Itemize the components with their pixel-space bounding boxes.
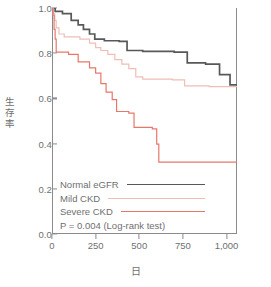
- y-tick-label: 1.0: [26, 3, 52, 14]
- series-line-mild-ckd: [52, 8, 237, 87]
- y-tick-label: 0.2: [26, 183, 52, 194]
- legend-item-mild-ckd: Mild CKD: [60, 192, 205, 206]
- series-line-severe-ckd: [52, 8, 237, 162]
- x-tick-mark: [51, 234, 52, 239]
- y-tick-label: 0.8: [26, 48, 52, 59]
- legend-swatch-severe-ckd: [121, 211, 205, 212]
- x-tick-label: 0: [49, 240, 54, 251]
- x-tick-label: 500: [131, 240, 147, 251]
- y-axis-title-char: 存: [3, 107, 17, 118]
- x-tick-mark: [226, 234, 227, 239]
- x-tick-label: 250: [88, 240, 104, 251]
- x-tick-label: 1,000: [215, 240, 239, 251]
- legend-label-normal-egfr: Normal eGFR: [60, 179, 119, 190]
- x-tick-mark: [139, 234, 140, 239]
- chart-legend: Normal eGFR Mild CKD Severe CKD P = 0.00…: [60, 178, 205, 232]
- legend-label-severe-ckd: Severe CKD: [60, 206, 113, 217]
- series-line-normal-egfr: [52, 8, 237, 85]
- x-axis: 02505007501,000: [52, 234, 237, 256]
- y-tick-label: 0.4: [26, 138, 52, 149]
- x-tick-mark: [95, 234, 96, 239]
- y-axis: 0.00.20.40.60.81.0: [14, 8, 52, 234]
- legend-swatch-normal-egfr: [127, 184, 205, 185]
- x-axis-title: 日: [0, 263, 271, 278]
- legend-item-severe-ckd: Severe CKD: [60, 205, 205, 219]
- y-axis-title-char: 生: [3, 96, 17, 107]
- y-tick-label: 0.0: [26, 229, 52, 240]
- y-axis-title: 生存率: [3, 96, 17, 129]
- pvalue-annotation: P = 0.004 (Log-rank test): [60, 219, 205, 233]
- x-tick-label: 750: [175, 240, 191, 251]
- legend-label-mild-ckd: Mild CKD: [60, 193, 100, 204]
- y-axis-title-char: 率: [3, 118, 17, 129]
- legend-swatch-mild-ckd: [108, 198, 205, 199]
- x-tick-mark: [182, 234, 183, 239]
- survival-chart-figure: 0.00.20.40.60.81.0 生存率 02505007501,000 日…: [0, 0, 271, 287]
- y-tick-label: 0.6: [26, 93, 52, 104]
- legend-item-normal-egfr: Normal eGFR: [60, 178, 205, 192]
